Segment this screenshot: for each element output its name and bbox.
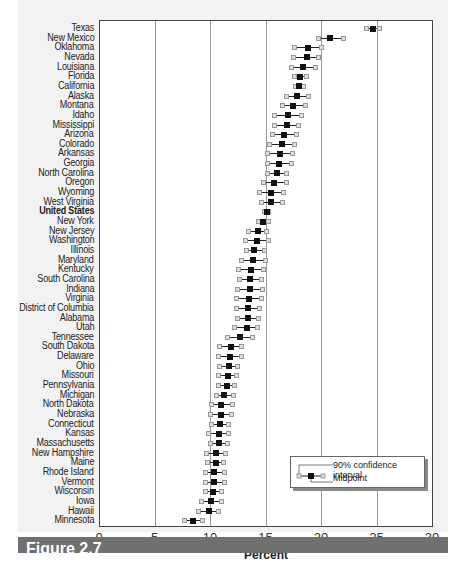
midpoint-marker <box>224 383 230 389</box>
ci-endpoint <box>243 238 248 243</box>
midpoint-marker <box>300 64 306 70</box>
midpoint-marker <box>305 45 311 51</box>
ci-endpoint <box>259 277 264 282</box>
gridline <box>155 21 156 526</box>
midpoint-marker <box>274 170 280 176</box>
figure-caption-banner: Figure 2.7 <box>18 537 448 553</box>
ci-endpoint <box>256 316 261 321</box>
ci-endpoint <box>289 161 294 166</box>
ci-endpoint <box>231 393 236 398</box>
ci-endpoint <box>223 451 228 456</box>
ci-endpoint <box>270 132 275 137</box>
midpoint-marker <box>297 74 303 80</box>
midpoint-marker <box>211 469 217 475</box>
midpoint-marker <box>208 498 214 504</box>
figure-caption: Figure 2.7 <box>26 539 102 559</box>
ci-endpoint <box>316 36 321 41</box>
ci-endpoint <box>272 123 277 128</box>
ci-endpoint <box>226 422 231 427</box>
ci-endpoint <box>235 287 240 292</box>
ci-endpoint <box>206 431 211 436</box>
ci-endpoint <box>261 180 266 185</box>
ci-endpoint <box>232 325 237 330</box>
midpoint-marker <box>247 276 253 282</box>
ci-endpoint <box>234 306 239 311</box>
ci-endpoint <box>257 190 262 195</box>
plot-area <box>99 20 433 527</box>
ci-endpoint <box>205 460 210 465</box>
ci-endpoint <box>265 171 270 176</box>
gridline <box>210 21 211 526</box>
ci-endpoint <box>250 335 255 340</box>
ci-endpoint <box>216 383 221 388</box>
midpoint-marker <box>227 354 233 360</box>
ci-endpoint <box>265 161 270 166</box>
midpoint-marker <box>281 132 287 138</box>
midpoint-marker <box>216 431 222 437</box>
midpoint-marker <box>276 161 282 167</box>
midpoint-marker <box>247 286 253 292</box>
ci-endpoint <box>203 489 208 494</box>
ci-endpoint <box>199 499 204 504</box>
ci-endpoint <box>204 451 209 456</box>
ci-endpoint <box>217 364 222 369</box>
midpoint-marker <box>213 450 219 456</box>
ci-endpoint <box>263 258 268 263</box>
ci-endpoint <box>221 460 226 465</box>
midpoint-marker <box>251 247 257 253</box>
midpoint-marker <box>260 219 266 225</box>
ci-endpoint <box>225 441 230 446</box>
midpoint-marker <box>225 373 231 379</box>
ci-endpoint <box>280 103 285 108</box>
category-label: Minnesota <box>54 515 94 525</box>
ci-endpoint <box>303 103 308 108</box>
ci-endpoint <box>341 36 346 41</box>
midpoint-marker <box>254 238 260 244</box>
midpoint-marker <box>217 421 223 427</box>
midpoint-marker <box>264 209 270 215</box>
ci-endpoint <box>219 489 224 494</box>
ci-endpoint <box>292 142 297 147</box>
midpoint-marker <box>237 334 243 340</box>
ci-endpoint <box>239 258 244 263</box>
ci-endpoint <box>266 219 271 224</box>
midpoint-marker <box>290 103 296 109</box>
ci-endpoint <box>216 509 221 514</box>
ci-endpoint <box>239 344 244 349</box>
ci-endpoint <box>236 267 241 272</box>
ci-endpoint <box>217 344 222 349</box>
ci-endpoint <box>272 113 277 118</box>
midpoint-marker <box>294 93 300 99</box>
legend: 90% confidence interval Midpoint <box>290 456 425 488</box>
midpoint-marker <box>279 141 285 147</box>
ci-endpoint <box>306 94 311 99</box>
midpoint-marker <box>213 460 219 466</box>
ci-endpoint <box>304 74 309 79</box>
ci-endpoint <box>208 412 213 417</box>
midpoint-marker <box>226 363 232 369</box>
midpoint-marker <box>244 325 250 331</box>
midpoint-marker <box>221 392 227 398</box>
ci-endpoint <box>234 373 239 378</box>
ci-endpoint <box>284 180 289 185</box>
ci-endpoint <box>200 518 205 523</box>
legend-midpoint-label: Midpoint <box>333 473 367 483</box>
ci-endpoint <box>259 200 264 205</box>
ci-endpoint <box>203 480 208 485</box>
ci-endpoint <box>377 26 382 31</box>
midpoint-marker <box>285 112 291 118</box>
ci-endpoint <box>289 65 294 70</box>
ci-endpoint <box>209 422 214 427</box>
ci-endpoint <box>313 65 318 70</box>
gridline <box>377 21 378 526</box>
midpoint-marker <box>268 199 274 205</box>
ci-endpoint <box>299 113 304 118</box>
midpoint-marker <box>228 344 234 350</box>
ci-endpoint <box>232 383 237 388</box>
ci-endpoint <box>208 441 213 446</box>
midpoint-marker <box>327 35 333 41</box>
ci-endpoint <box>216 373 221 378</box>
ci-endpoint <box>262 248 267 253</box>
ci-endpoint <box>229 412 234 417</box>
